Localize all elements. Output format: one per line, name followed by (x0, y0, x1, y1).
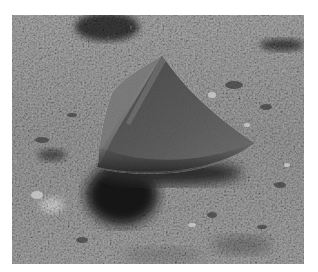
cone-on-gravel-scene (12, 15, 304, 264)
photograph (12, 15, 304, 264)
